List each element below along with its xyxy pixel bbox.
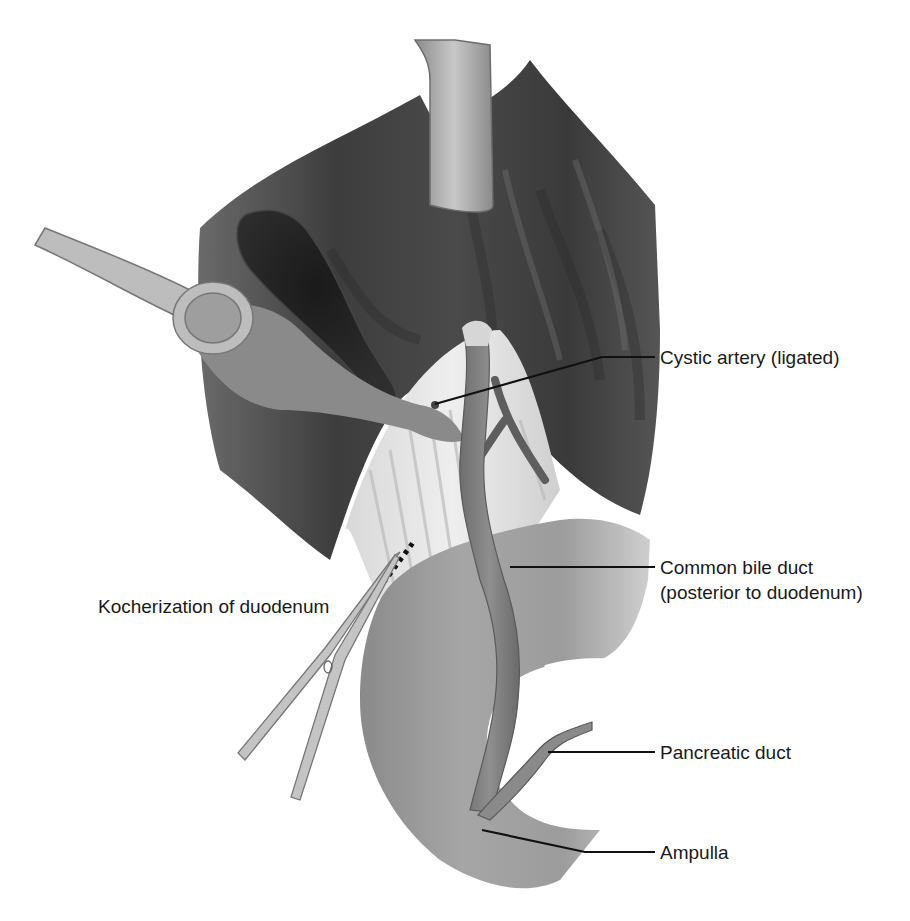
surgical-illustration: Cystic artery (ligated) Common bile duct… (0, 0, 910, 921)
label-common-bile-duct: Common bile duct (660, 557, 814, 578)
label-kocherization: Kocherization of duodenum (98, 596, 329, 617)
label-cystic-artery: Cystic artery (ligated) (660, 347, 840, 368)
label-ampulla: Ampulla (660, 842, 729, 863)
label-pancreatic-duct: Pancreatic duct (660, 742, 792, 763)
label-common-bile-duct-note: (posterior to duodenum) (660, 582, 863, 603)
